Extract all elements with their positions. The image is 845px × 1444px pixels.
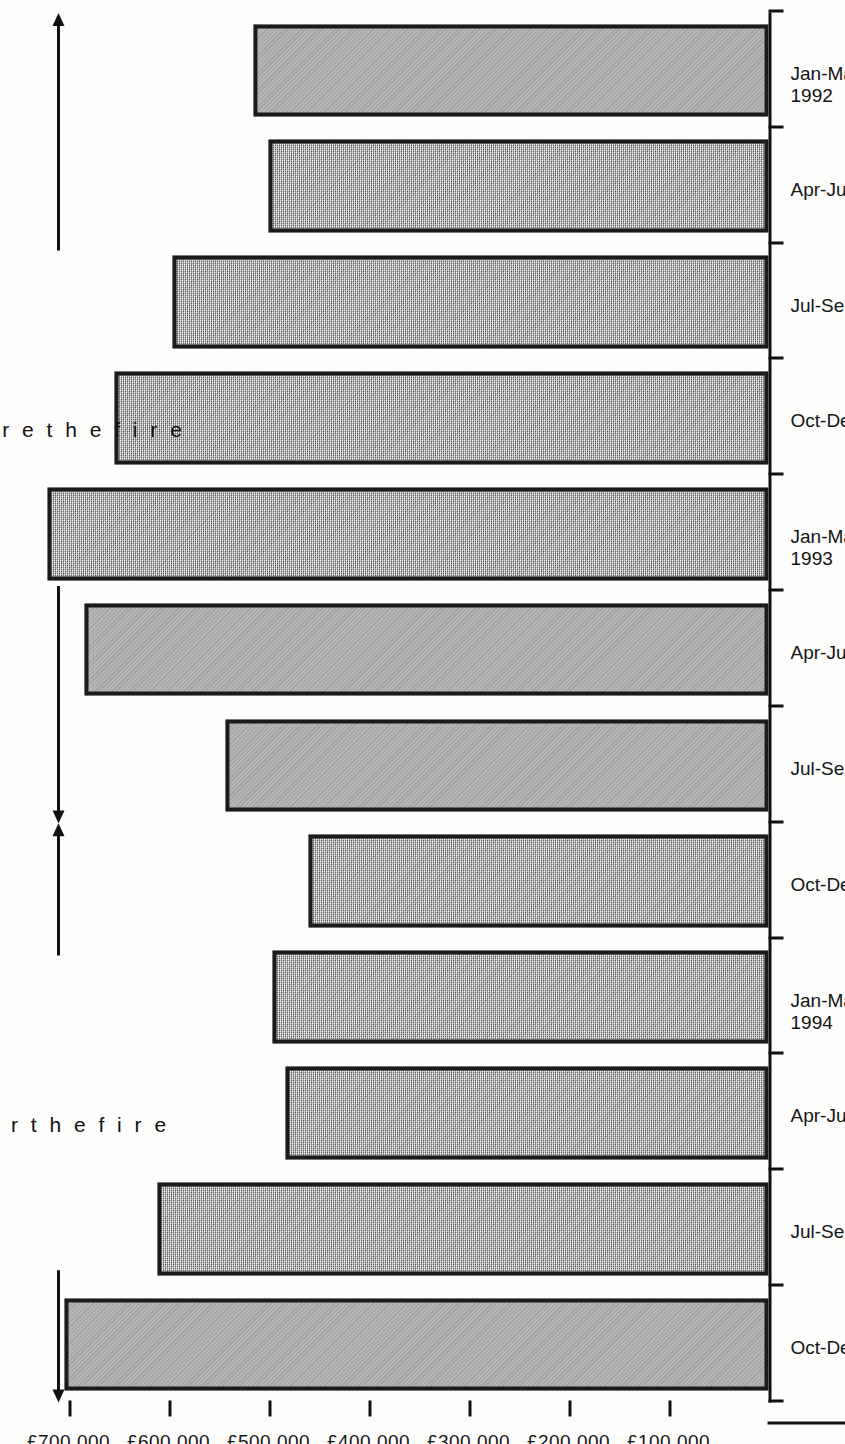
annotation-before-fire-arrow-left [45,583,71,823]
value-axis-tick [468,1400,471,1416]
category-axis-tick [768,936,783,939]
category-axis-tick [768,588,783,591]
category-label-quarter: Jan-Mar [790,62,845,83]
bar [47,487,768,580]
category-label-quarter: Oct-Dec [790,873,845,894]
bar [268,139,768,232]
value-axis-tick [268,1400,271,1416]
bar [253,24,768,117]
value-axis-tick-label: £500,000 [226,1430,309,1444]
bar [157,1182,768,1275]
value-axis-tick [568,1400,571,1416]
category-label-quarter: Jul-Sep [790,1220,845,1241]
category-label: Jul-Sep [790,294,845,316]
annotation-after-fire-label: A f t e r t h e f i r e [0,1112,169,1136]
category-axis-tick [768,704,783,707]
category-axis-tick [768,9,783,12]
category-axis-tick [768,125,783,128]
value-axis-tick-label: £400,000 [326,1430,409,1444]
chart-canvas: £700,000£600,000£500,000£400,000£300,000… [0,0,845,1444]
category-label: Jul-Sep [790,757,845,779]
value-axis-tick [168,1400,171,1416]
category-label-quarter: Jul-Sep [790,757,845,778]
category-label-quarter: Jul-Sep [790,294,845,315]
annotation-after-fire-arrow-right [45,823,71,957]
category-label: Apr-Jun [790,641,845,663]
category-label: Jan-Mar1993 [790,525,845,570]
category-label: Jan-Mar1994 [790,989,845,1034]
category-axis-tick [768,1283,783,1286]
category-label-year: 1992 [790,84,845,106]
category-label: Jan-Mar1992 [790,62,845,107]
bar [272,950,768,1043]
value-axis-line [767,1421,845,1424]
category-axis-tick [768,1052,783,1055]
annotation-after-fire-arrow-left [45,1268,71,1402]
category-label: Oct-Dec [790,409,845,431]
value-axis-tick-label: £300,000 [426,1430,509,1444]
annotation-before-fire-arrow-right [45,12,71,252]
bar [172,255,768,348]
annotation-before-fire-label: B e f o r e t h e f i r e [0,417,185,441]
value-axis-tick [668,1400,671,1416]
bar [308,834,768,927]
category-axis-tick [768,241,783,244]
bar [84,603,768,696]
value-axis-tick-label: £100,000 [626,1430,709,1444]
category-label-quarter: Jan-Mar [790,525,845,546]
value-axis-tick-label: £600,000 [126,1430,209,1444]
category-label-year: 1993 [790,548,845,570]
category-label: Apr-Jun [790,1104,845,1126]
category-label-quarter: Apr-Jun [790,641,845,662]
bar [285,1066,768,1159]
category-label: Oct-Dec [790,1336,845,1358]
category-label-quarter: Oct-Dec [790,1336,845,1357]
category-label: Jul-Sep [790,1220,845,1242]
value-axis-tick-label: £200,000 [526,1430,609,1444]
bar [225,719,768,812]
category-axis-tick [768,1399,783,1402]
value-axis-tick-label: £700,000 [26,1430,109,1444]
category-axis-tick [768,1167,783,1170]
value-axis-tick [368,1400,371,1416]
category-label-quarter: Apr-Jun [790,178,845,199]
category-axis-tick [768,472,783,475]
category-label: Apr-Jun [790,178,845,200]
bar [114,371,768,464]
category-label: Oct-Dec [790,873,845,895]
category-axis-tick [768,357,783,360]
category-axis-tick [768,820,783,823]
category-label-quarter: Apr-Jun [790,1104,845,1125]
bar [64,1298,768,1391]
plot-area: £700,000£600,000£500,000£400,000£300,000… [0,0,845,1444]
category-label-year: 1994 [790,1011,845,1033]
category-label-quarter: Jan-Mar [790,989,845,1010]
category-label-quarter: Oct-Dec [790,409,845,430]
